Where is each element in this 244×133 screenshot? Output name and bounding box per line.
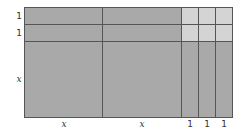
x-tile-r1-c2 [102, 7, 182, 25]
unit-tile-r1-c4 [198, 7, 216, 25]
left-label-2: 1 [16, 28, 22, 38]
bottom-label-1: x [61, 119, 66, 129]
bottom-label-2: x [139, 119, 144, 129]
x-squared-tile-r3-c2 [102, 41, 182, 118]
bottom-label-3: 1 [187, 119, 193, 129]
bottom-label-4: 1 [204, 119, 210, 129]
x-squared-tile-r3-c1 [24, 41, 103, 118]
x-tile-r3-c5 [215, 41, 233, 118]
x-tile-r1-c1 [24, 7, 103, 25]
unit-tile-r1-c5 [215, 7, 233, 25]
unit-tile-r2-c3 [181, 24, 199, 42]
unit-tile-r2-c5 [215, 24, 233, 42]
left-label-3: x [16, 74, 21, 84]
unit-tile-r2-c4 [198, 24, 216, 42]
bottom-label-5: 1 [221, 119, 227, 129]
x-tile-r2-c2 [102, 24, 182, 42]
left-label-1: 1 [16, 11, 22, 21]
unit-tile-r1-c3 [181, 7, 199, 25]
x-tile-r3-c4 [198, 41, 216, 118]
x-tile-r2-c1 [24, 24, 103, 42]
x-tile-r3-c3 [181, 41, 199, 118]
